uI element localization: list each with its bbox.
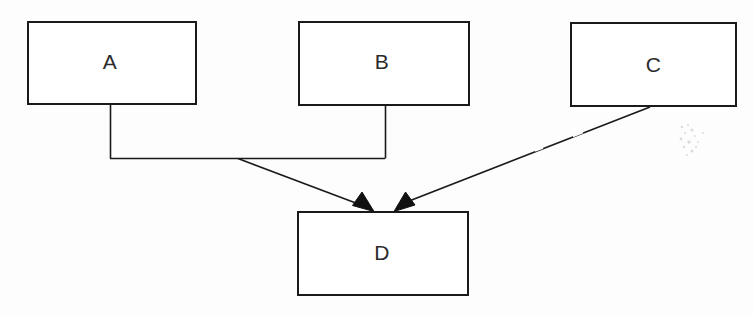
arrowhead-into-d-left	[353, 192, 375, 212]
node-box-d[interactable]: D	[297, 211, 469, 296]
node-box-c[interactable]: C	[570, 22, 737, 107]
node-box-a[interactable]: A	[27, 21, 197, 105]
node-box-b[interactable]: B	[298, 21, 470, 106]
node-label-c: C	[646, 54, 662, 75]
node-label-d: D	[374, 242, 390, 263]
edge-a-to-d-diagonal	[238, 159, 369, 209]
node-label-b: B	[375, 51, 390, 72]
arrowhead-into-d-right	[394, 192, 415, 212]
edge-c-to-d-diagonal	[404, 107, 650, 203]
node-label-a: A	[103, 51, 118, 72]
diagram-canvas: A B C D	[0, 0, 754, 316]
